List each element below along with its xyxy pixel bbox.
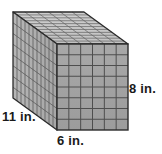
prism-figure: 6 in. 8 in. 11 in. xyxy=(0,0,162,154)
front-face xyxy=(57,44,128,130)
dimension-label-depth: 11 in. xyxy=(2,110,36,123)
rectangular-prism-drawing xyxy=(0,0,162,154)
dimension-label-height: 8 in. xyxy=(129,82,156,95)
dimension-label-width: 6 in. xyxy=(57,134,84,147)
